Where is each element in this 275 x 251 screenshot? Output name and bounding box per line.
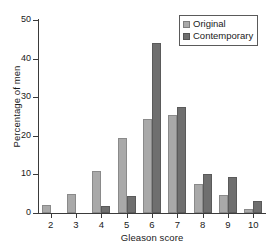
bar-contemporary-7: [177, 107, 186, 213]
x-tick-mark: [127, 214, 128, 218]
y-tick-label: 50: [6, 14, 31, 24]
x-tick-label: 3: [64, 219, 88, 230]
legend-item-contemporary: Contemporary: [183, 30, 253, 42]
bar-contemporary-8: [203, 174, 212, 213]
x-tick-label: 2: [39, 219, 63, 230]
y-tick-label: 40: [6, 53, 31, 63]
bar-contemporary-9: [228, 177, 237, 213]
legend-label-contemporary: Contemporary: [193, 30, 253, 42]
bar-original-3: [67, 194, 76, 213]
x-tick-mark: [51, 214, 52, 218]
y-tick-label: 10: [6, 168, 31, 178]
legend-swatch-contemporary-icon: [183, 33, 190, 40]
bar-contemporary-5: [127, 196, 136, 213]
legend-swatch-original-icon: [183, 21, 190, 28]
bar-original-4: [92, 171, 101, 213]
bar-original-10: [244, 209, 253, 213]
x-tick-label: 9: [216, 219, 240, 230]
bar-contemporary-4: [101, 206, 110, 213]
x-tick-label: 8: [191, 219, 215, 230]
x-tick-label: 5: [115, 219, 139, 230]
gleason-score-bar-chart: Percentage of men 01020304050 2345678910…: [0, 0, 275, 251]
bar-original-9: [219, 195, 228, 213]
x-tick-mark: [152, 214, 153, 218]
bar-original-2: [42, 205, 51, 213]
x-tick-mark: [101, 214, 102, 218]
bar-original-6: [143, 119, 152, 213]
legend-item-original: Original: [183, 18, 253, 30]
x-tick-label: 10: [241, 219, 265, 230]
x-tick-mark: [253, 214, 254, 218]
bar-original-8: [194, 184, 203, 213]
bar-original-7: [168, 115, 177, 213]
x-tick-mark: [228, 214, 229, 218]
legend-label-original: Original: [193, 18, 226, 30]
x-tick-label: 7: [165, 219, 189, 230]
x-tick-label: 6: [140, 219, 164, 230]
x-axis-title: Gleason score: [36, 232, 268, 243]
x-tick-mark: [203, 214, 204, 218]
y-tick-label: 20: [6, 130, 31, 140]
bar-original-5: [118, 138, 127, 213]
chart-legend: Original Contemporary: [179, 15, 258, 46]
bar-contemporary-10: [253, 201, 262, 213]
x-tick-mark: [76, 214, 77, 218]
bar-contemporary-6: [152, 43, 161, 213]
y-tick-label: 30: [6, 91, 31, 101]
y-axis-title: Percentage of men: [10, 0, 24, 213]
x-tick-mark: [177, 214, 178, 218]
y-tick-mark: [33, 213, 38, 214]
y-tick-label: 0: [6, 207, 31, 217]
x-tick-label: 4: [89, 219, 113, 230]
bars-layer: [38, 20, 266, 213]
